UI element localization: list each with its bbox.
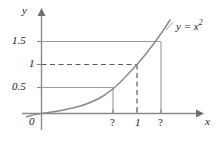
y-tick-label-0-5: 0.5 [12, 81, 26, 92]
y-tick-label-1-5: 1.5 [12, 35, 26, 46]
curve-equation-text: y = x [176, 20, 199, 32]
x-axis-label: x [205, 116, 210, 127]
curve-equation-label: y = x2 [176, 19, 202, 32]
y-axis-arrowhead [38, 8, 46, 16]
x-tick-label-1: 1 [135, 117, 141, 128]
curve-equation-exponent: 2 [199, 18, 203, 27]
function-graph-figure: y x 0 1.5 1 0.5 ? 1 ? y = x2 [0, 0, 219, 142]
x-tick-label-sqrt1-5: ? [158, 117, 163, 128]
y-axis-label: y [22, 5, 27, 16]
curve-label-leader [166, 22, 173, 30]
x-tick-label-sqrt0-5: ? [110, 117, 115, 128]
y-tick-label-1: 1 [29, 58, 35, 69]
origin-label: 0 [29, 116, 35, 127]
parabola-curve [27, 20, 170, 117]
x-axis-arrowhead [196, 110, 204, 118]
